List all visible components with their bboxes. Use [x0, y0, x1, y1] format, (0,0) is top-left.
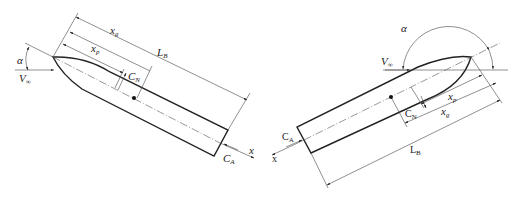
left-missile-body [53, 57, 228, 156]
left-dim-xg [70, 32, 150, 71]
left-ext-line-lb-end [228, 93, 250, 130]
right-xg-label: xg [440, 105, 450, 119]
left-vinf-label: V∞ [19, 72, 31, 86]
right-x-axis-label: x [272, 153, 277, 164]
left-ca-arrow [224, 144, 238, 150]
left-xg-label: xg [109, 24, 119, 38]
right-alpha-arc [403, 26, 489, 69]
diagram-canvas: α V∞ xg xp LB CN CA x [0, 0, 517, 197]
left-ext-line-lb-start [53, 13, 78, 57]
left-cn-arrow [118, 73, 126, 90]
right-cn-label: CN [405, 108, 417, 121]
right-vinf-label: V∞ [381, 55, 393, 69]
right-ext-line-xp [411, 87, 424, 108]
left-cn-label: CN [128, 70, 140, 84]
right-ext-line-base [311, 153, 328, 188]
right-missile-diagram: α V∞ xp xg CN CA LB x [272, 22, 508, 188]
right-xp-label: xp [447, 90, 457, 104]
right-ca-label: CA [282, 131, 294, 144]
right-body-axis [304, 43, 500, 140]
left-lb-label: LB [156, 46, 168, 60]
left-xp-label: xp [90, 42, 100, 56]
left-alpha-arc [26, 47, 29, 70]
left-missile-diagram: α V∞ xg xp LB CN CA x [15, 13, 254, 166]
right-alpha-arc-tail [489, 50, 493, 69]
left-body-axis [53, 57, 220, 143]
right-ext-line-nose [471, 57, 502, 103]
left-alpha-ref-line [25, 43, 53, 57]
right-alpha-label: α [401, 22, 407, 34]
left-cg-dot [132, 96, 136, 100]
left-alpha-label: α [17, 54, 23, 66]
left-ca-label: CA [223, 152, 235, 166]
right-lb-label: LB [410, 144, 421, 157]
left-dim-lb [76, 17, 247, 100]
right-cg-dot [389, 95, 393, 99]
left-x-axis-label: x [248, 144, 254, 156]
